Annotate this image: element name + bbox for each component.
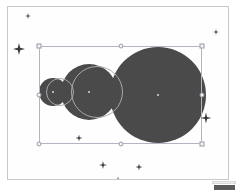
sparkle-left-large-icon[interactable] — [13, 43, 25, 55]
document-frame — [7, 6, 229, 180]
selection-handle-top-right[interactable] — [200, 44, 205, 49]
selection-handle-middle-right[interactable] — [200, 93, 205, 98]
selection-handle-top-left[interactable] — [37, 44, 42, 49]
sparkle-bottom-right-icon[interactable] — [136, 164, 143, 171]
selection-handle-bottom-left[interactable] — [37, 142, 42, 147]
sparkle-top-right-icon[interactable] — [213, 29, 219, 35]
sparkle-bottom-center-icon[interactable] — [115, 177, 122, 180]
selection-handle-top-center[interactable] — [118, 44, 123, 49]
sparkle-bottom-left-icon[interactable] — [99, 161, 107, 169]
selection-bounding-box[interactable] — [39, 46, 202, 144]
selection-handle-bottom-center[interactable] — [118, 142, 123, 147]
sparkle-top-left-small-icon[interactable] — [25, 13, 31, 19]
selection-handle-middle-left[interactable] — [37, 93, 42, 98]
scrollbar-thumb[interactable] — [214, 185, 235, 190]
scrollbar-rail[interactable] — [212, 181, 236, 184]
drawing-canvas[interactable] — [8, 7, 228, 179]
sparkle-right-large-icon[interactable] — [201, 113, 212, 124]
selection-handle-bottom-right[interactable] — [200, 142, 205, 147]
editor-window — [0, 0, 237, 191]
